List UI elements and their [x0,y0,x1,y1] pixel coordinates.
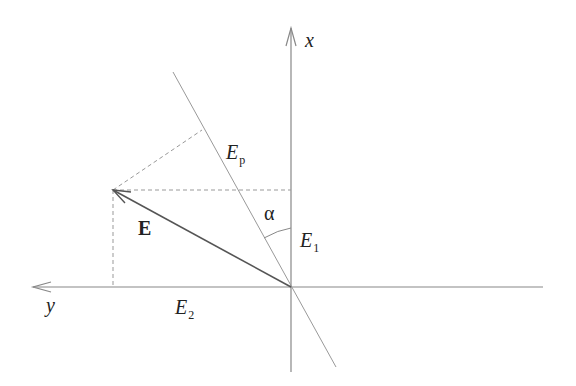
x-axis-label: x [305,30,314,50]
component-e1-label-sub: 1 [313,241,319,255]
dashed-ep-projection [113,130,202,190]
projection-line-label: Ep [226,142,245,162]
vector-e-arrow-icon [113,190,131,203]
y-axis-label: y [46,295,55,315]
component-e2-label-sub: 2 [188,308,194,322]
projection-line-label-main: E [226,141,238,163]
angle-alpha-label: α [264,203,274,223]
projection-line-label-sub: p [239,153,245,167]
component-e1-label: E1 [300,230,319,250]
component-e2-label-main: E [175,296,187,318]
diagram-canvas [0,0,576,386]
projection-line [173,72,336,367]
component-e2-label: E2 [175,297,194,317]
angle-arc [264,228,291,238]
component-e1-label-main: E [300,229,312,251]
vector-e-label: E [138,218,151,238]
